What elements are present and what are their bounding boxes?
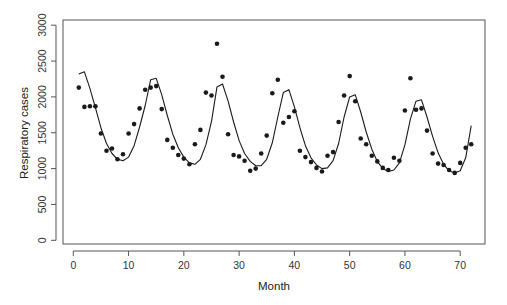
data-point — [137, 106, 142, 111]
data-point — [381, 166, 386, 171]
data-point — [159, 107, 164, 112]
data-point — [226, 132, 231, 137]
data-point — [165, 138, 170, 143]
data-point — [320, 169, 325, 174]
x-tick-label: 40 — [289, 259, 301, 271]
x-axis-title: Month — [258, 280, 290, 292]
data-point — [458, 161, 463, 166]
data-point — [77, 85, 82, 90]
data-point — [121, 152, 126, 157]
data-point — [270, 91, 275, 96]
data-point — [171, 146, 176, 151]
data-point — [259, 151, 264, 156]
data-point — [248, 169, 253, 174]
y-axis-title: Respiratory cases — [18, 87, 30, 179]
x-tick-label: 20 — [178, 259, 190, 271]
data-point — [182, 156, 187, 161]
data-point — [298, 148, 303, 153]
x-tick-label: 60 — [399, 259, 411, 271]
data-point — [126, 131, 131, 136]
data-point — [392, 156, 397, 161]
data-point — [469, 142, 474, 147]
data-point — [264, 133, 269, 138]
data-point — [364, 142, 369, 147]
data-point — [309, 160, 314, 165]
data-point — [154, 84, 159, 89]
data-point — [314, 166, 319, 171]
data-point — [347, 74, 352, 79]
y-tick-label: 3000 — [36, 13, 48, 37]
data-point — [204, 90, 209, 95]
data-point — [463, 146, 468, 151]
y-tick-label: 1000 — [36, 157, 48, 181]
data-point — [220, 75, 225, 80]
data-point — [292, 109, 297, 114]
data-point — [231, 153, 236, 158]
data-point — [193, 142, 198, 147]
data-point — [370, 153, 375, 158]
data-point — [187, 162, 192, 167]
chart: 050010001500200025003000 010203040506070… — [0, 0, 507, 305]
data-point — [115, 157, 120, 162]
data-point — [148, 85, 153, 90]
data-point — [110, 146, 115, 151]
x-tick-label: 10 — [123, 259, 135, 271]
data-point — [99, 131, 104, 136]
data-point — [276, 77, 281, 82]
data-point — [143, 87, 148, 92]
data-point — [132, 122, 137, 127]
data-point — [198, 128, 203, 133]
data-point — [88, 104, 93, 109]
data-point — [436, 161, 441, 166]
data-point — [397, 158, 402, 163]
y-tick-label: 2500 — [36, 49, 48, 73]
data-point — [242, 158, 247, 163]
data-point — [331, 150, 336, 155]
y-tick-label: 2000 — [36, 85, 48, 109]
data-point — [375, 159, 380, 164]
data-point — [419, 106, 424, 111]
data-point — [425, 128, 430, 133]
data-point — [303, 155, 308, 160]
x-tick-label: 70 — [454, 259, 466, 271]
data-point — [452, 171, 457, 176]
y-tick-label: 1500 — [36, 121, 48, 145]
data-point — [386, 168, 391, 173]
data-point — [325, 153, 330, 158]
data-point — [287, 115, 292, 120]
data-point — [82, 105, 87, 110]
data-point — [447, 168, 452, 173]
data-point — [93, 104, 98, 109]
data-point — [441, 163, 446, 168]
y-axis: 050010001500200025003000 — [36, 13, 56, 243]
data-point — [209, 93, 214, 98]
data-point — [342, 93, 347, 98]
x-tick-label: 0 — [70, 259, 76, 271]
data-point — [176, 153, 181, 158]
x-tick-label: 30 — [233, 259, 245, 271]
data-point — [403, 108, 408, 113]
plot-box — [63, 20, 485, 244]
data-point — [104, 148, 109, 153]
data-point — [336, 120, 341, 125]
data-point — [281, 120, 286, 125]
data-point — [253, 166, 258, 171]
y-tick-label: 0 — [36, 237, 48, 243]
data-point — [414, 108, 419, 113]
fitted-line — [79, 72, 471, 173]
data-point — [358, 136, 363, 141]
y-tick-label: 500 — [36, 196, 48, 214]
data-point — [353, 99, 358, 104]
data-point — [430, 151, 435, 156]
x-axis: 010203040506070 — [70, 251, 466, 271]
x-tick-label: 50 — [344, 259, 356, 271]
data-point — [237, 154, 242, 159]
data-point — [408, 76, 413, 81]
data-point — [215, 42, 220, 47]
